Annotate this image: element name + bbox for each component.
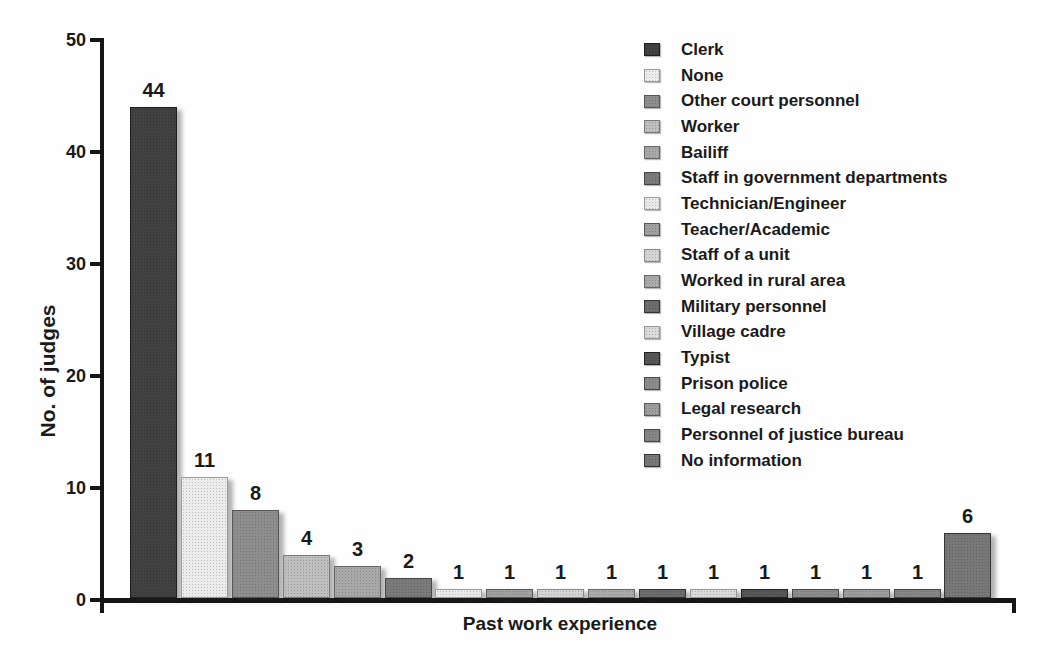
- legend-swatch-icon: [644, 223, 660, 236]
- bar-chart-figure: 01020304050 4411843211111111116 No. of j…: [0, 0, 1059, 668]
- legend-label: Worker: [681, 117, 739, 137]
- bar-bailiff: [334, 566, 381, 598]
- legend-item: Worker: [644, 114, 947, 140]
- legend-item: None: [644, 63, 947, 89]
- legend-swatch-icon: [644, 403, 660, 416]
- legend-item: Teacher/Academic: [644, 217, 947, 243]
- legend-swatch-icon: [644, 249, 660, 262]
- x-axis-title: Past work experience: [300, 613, 820, 635]
- y-tick-label: 30: [34, 253, 86, 275]
- legend-item: Prison police: [644, 371, 947, 397]
- legend-swatch-icon: [644, 69, 660, 82]
- y-tick-mark: [90, 150, 101, 154]
- legend-item: Personnel of justice bureau: [644, 422, 947, 448]
- bar-teacher-academic: [486, 589, 533, 598]
- legend-swatch-icon: [644, 120, 660, 133]
- legend-label: Prison police: [681, 374, 788, 394]
- legend-label: Clerk: [681, 40, 724, 60]
- bar-military-personnel: [639, 589, 686, 598]
- legend-swatch-icon: [644, 197, 660, 210]
- bar-worked-in-rural-area: [588, 589, 635, 598]
- y-tick-mark: [90, 374, 101, 378]
- y-tick-mark: [90, 598, 101, 602]
- y-axis-title: No. of judges: [36, 305, 60, 438]
- legend-item: Typist: [644, 345, 947, 371]
- x-axis-line: [100, 598, 1016, 603]
- legend-label: Legal research: [681, 399, 801, 419]
- legend-item: Staff of a unit: [644, 243, 947, 269]
- y-tick-label: 50: [34, 29, 86, 51]
- legend-label: No information: [681, 451, 802, 471]
- legend-label: Personnel of justice bureau: [681, 425, 904, 445]
- y-axis-line: [100, 38, 104, 613]
- legend-swatch-icon: [644, 172, 660, 185]
- legend-swatch-icon: [644, 300, 660, 313]
- bar-other-court-personnel: [232, 510, 279, 598]
- bar-value-label: 6: [938, 504, 998, 528]
- bar-value-label: 44: [124, 78, 184, 102]
- legend-item: Legal research: [644, 397, 947, 423]
- bar-staff-in-government-departments: [385, 578, 432, 598]
- legend-item: Worked in rural area: [644, 268, 947, 294]
- bar-typist: [741, 589, 788, 598]
- bar-value-label: 11: [175, 448, 235, 472]
- legend-item: Military personnel: [644, 294, 947, 320]
- bar-technician-engineer: [435, 589, 482, 598]
- legend-item: Other court personnel: [644, 88, 947, 114]
- legend-item: Bailiff: [644, 140, 947, 166]
- x-axis-end-cap: [1012, 598, 1016, 613]
- legend-swatch-icon: [644, 352, 660, 365]
- legend-swatch-icon: [644, 43, 660, 56]
- bar-none: [181, 477, 228, 598]
- legend-label: Military personnel: [681, 297, 826, 317]
- legend-label: Village cadre: [681, 322, 786, 342]
- bar-no-information: [944, 533, 991, 598]
- legend-label: Typist: [681, 348, 730, 368]
- legend-swatch-icon: [644, 326, 660, 339]
- legend-label: Worked in rural area: [681, 271, 845, 291]
- y-tick-mark: [90, 38, 101, 42]
- legend-swatch-icon: [644, 95, 660, 108]
- legend-swatch-icon: [644, 429, 660, 442]
- legend-swatch-icon: [644, 146, 660, 159]
- legend-item: Clerk: [644, 37, 947, 63]
- bar-prison-police: [792, 589, 839, 598]
- legend-label: None: [681, 66, 724, 86]
- bar-personnel-of-justice-bureau: [894, 589, 941, 598]
- y-tick-mark: [90, 486, 101, 490]
- bar-staff-of-a-unit: [537, 589, 584, 598]
- bar-clerk: [130, 107, 177, 598]
- legend-item: No information: [644, 448, 947, 474]
- legend-label: Other court personnel: [681, 91, 860, 111]
- legend-item: Village cadre: [644, 320, 947, 346]
- legend-label: Teacher/Academic: [681, 220, 830, 240]
- legend-label: Technician/Engineer: [681, 194, 846, 214]
- bar-worker: [283, 555, 330, 598]
- bar-value-label: 1: [888, 560, 948, 584]
- y-tick-label: 0: [34, 589, 86, 611]
- legend-swatch-icon: [644, 454, 660, 467]
- legend-swatch-icon: [644, 275, 660, 288]
- bar-value-label: 8: [226, 481, 286, 505]
- legend-item: Staff in government departments: [644, 165, 947, 191]
- y-tick-mark: [90, 262, 101, 266]
- legend-label: Staff of a unit: [681, 245, 790, 265]
- y-tick-label: 10: [34, 477, 86, 499]
- legend-swatch-icon: [644, 377, 660, 390]
- legend-label: Bailiff: [681, 143, 728, 163]
- legend-item: Technician/Engineer: [644, 191, 947, 217]
- bar-village-cadre: [690, 589, 737, 598]
- legend: ClerkNoneOther court personnelWorkerBail…: [644, 37, 947, 474]
- bar-legal-research: [843, 589, 890, 598]
- y-tick-label: 40: [34, 141, 86, 163]
- legend-label: Staff in government departments: [681, 168, 947, 188]
